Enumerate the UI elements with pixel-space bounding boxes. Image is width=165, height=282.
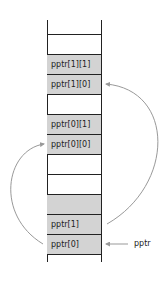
arrow-pptr1-to-pptr10 [106, 84, 158, 224]
pointer-label: pptr [134, 239, 151, 248]
arrow-pptr0-to-pptr00 [11, 144, 44, 244]
